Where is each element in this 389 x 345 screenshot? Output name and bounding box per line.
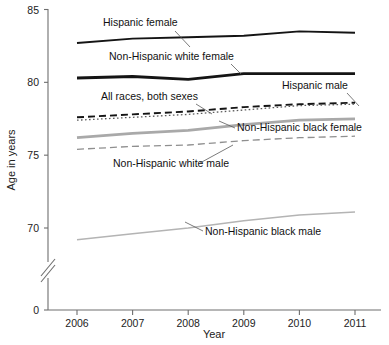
x-axis-title: Year [203, 328, 226, 340]
y-axis-title: Age in years [5, 129, 17, 191]
x-tick-label: 2010 [288, 317, 312, 329]
series-annotation-hispanic-male: Hispanic male [282, 79, 348, 91]
y-tick-label: 85 [27, 4, 39, 16]
series-annotation-non-hispanic-white-female: Non-Hispanic white female [109, 50, 234, 62]
x-tick-label: 2009 [232, 317, 256, 329]
y-tick-label: 80 [27, 76, 39, 88]
x-tick-label: 2007 [121, 317, 145, 329]
x-tick-label: 2008 [177, 317, 201, 329]
life-expectancy-line-chart: 070758085 200620072008200920102011 Hispa… [0, 0, 389, 345]
y-tick-label: 75 [27, 149, 39, 161]
series-annotation-hispanic-female: Hispanic female [103, 16, 178, 28]
x-tick-label: 2011 [344, 317, 367, 329]
y-tick-label: 70 [27, 222, 39, 234]
series-annotation-non-hispanic-black-female: Non-Hispanic black female [237, 121, 362, 133]
series-annotation-all-races-both-sexes: All races, both sexes [101, 90, 198, 102]
series-annotation-non-hispanic-black-male: Non-Hispanic black male [205, 225, 321, 237]
x-tick-label: 2006 [65, 317, 89, 329]
series-annotation-non-hispanic-white-male: Non-Hispanic white male [113, 157, 229, 169]
chart-canvas: 070758085 200620072008200920102011 Hispa… [0, 0, 389, 345]
y-tick-label: 0 [33, 304, 39, 316]
